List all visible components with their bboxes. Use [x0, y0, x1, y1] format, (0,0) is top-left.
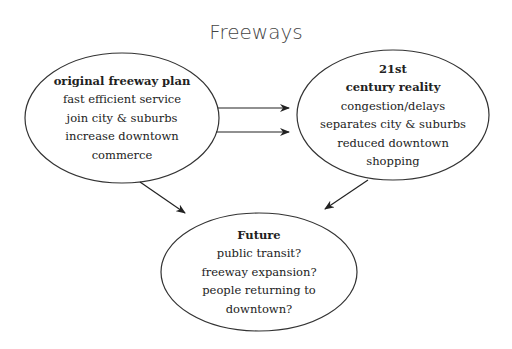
node-reality-item: congestion/delays — [341, 97, 445, 116]
arrow-original-to-future — [140, 182, 185, 213]
node-future-item: freeway expansion? — [201, 263, 316, 282]
node-reality-item: reduced downtown — [337, 134, 449, 153]
arrow-reality-to-future — [325, 180, 368, 209]
node-original-item: commerce — [92, 146, 153, 165]
node-future-heading: Future — [237, 226, 280, 245]
node-original-item: join city & suburbs — [67, 109, 178, 128]
node-reality-item: shopping — [366, 152, 419, 171]
node-reality-heading: century reality — [346, 78, 441, 97]
node-original-heading: original freeway plan — [54, 72, 191, 91]
node-future: Future public transit? freeway expansion… — [161, 213, 357, 331]
node-reality-heading: 21st — [379, 60, 407, 79]
node-reality-item: separates city & suburbs — [320, 115, 466, 134]
node-future-item: downtown? — [226, 300, 293, 319]
node-future-item: public transit? — [217, 244, 301, 263]
node-original: original freeway plan fast efficient ser… — [25, 53, 219, 183]
node-original-item: fast efficient service — [63, 90, 181, 109]
node-original-item: increase downtown — [65, 127, 178, 146]
node-reality: 21st century reality congestion/delays s… — [297, 50, 489, 180]
node-future-item: people returning to — [202, 281, 315, 300]
